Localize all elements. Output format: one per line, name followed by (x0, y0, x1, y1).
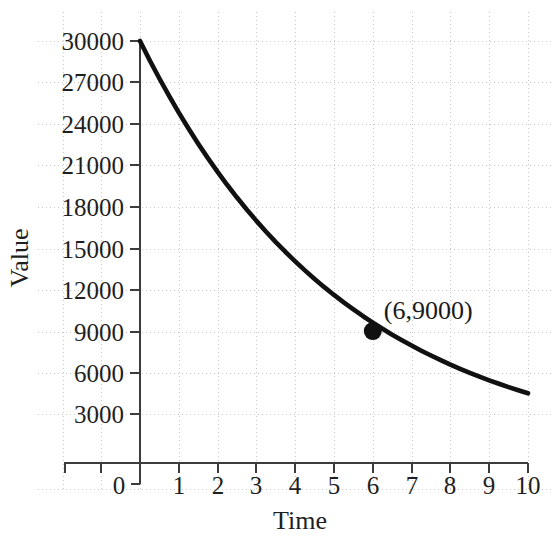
y-tick-label-21000: 21000 (62, 152, 125, 179)
y-tick-label-18000: 18000 (62, 194, 125, 221)
annotated-data-point-marker (364, 322, 382, 340)
chart-container: 30000 27000 24000 21000 18000 15000 1200… (0, 0, 558, 553)
x-tick-label-9: 9 (483, 472, 496, 499)
y-tick-label-15000: 15000 (62, 236, 125, 263)
x-tick-label-0: 0 (113, 472, 126, 499)
chart-canvas: 30000 27000 24000 21000 18000 15000 1200… (0, 0, 558, 553)
y-tick-label-12000: 12000 (62, 277, 125, 304)
x-tick-label-1: 1 (173, 472, 186, 499)
y-tick-label-24000: 24000 (62, 111, 125, 138)
x-tick-label-4: 4 (289, 472, 302, 499)
x-tick-label-3: 3 (250, 472, 263, 499)
x-tick-label-2: 2 (212, 472, 225, 499)
x-axis-tick-labels: 0 1 2 3 4 5 6 7 8 9 10 (113, 472, 541, 499)
x-tick-label-10: 10 (516, 472, 541, 499)
x-tick-label-6: 6 (367, 472, 380, 499)
y-tick-label-27000: 27000 (62, 69, 125, 96)
y-tick-label-6000: 6000 (74, 360, 124, 387)
y-axis-ticks (130, 41, 140, 414)
y-tick-label-9000: 9000 (74, 319, 124, 346)
y-axis-title: Value (5, 228, 34, 287)
y-tick-label-3000: 3000 (74, 401, 124, 428)
vertical-gridlines (63, 12, 528, 489)
y-tick-label-30000: 30000 (62, 28, 125, 55)
x-tick-label-5: 5 (328, 472, 341, 499)
x-tick-label-8: 8 (444, 472, 457, 499)
x-axis-title: Time (273, 506, 327, 535)
y-axis-tick-labels: 30000 27000 24000 21000 18000 15000 1200… (62, 28, 125, 428)
x-tick-label-7: 7 (406, 472, 419, 499)
annotated-data-point-label: (6,9000) (384, 296, 473, 325)
